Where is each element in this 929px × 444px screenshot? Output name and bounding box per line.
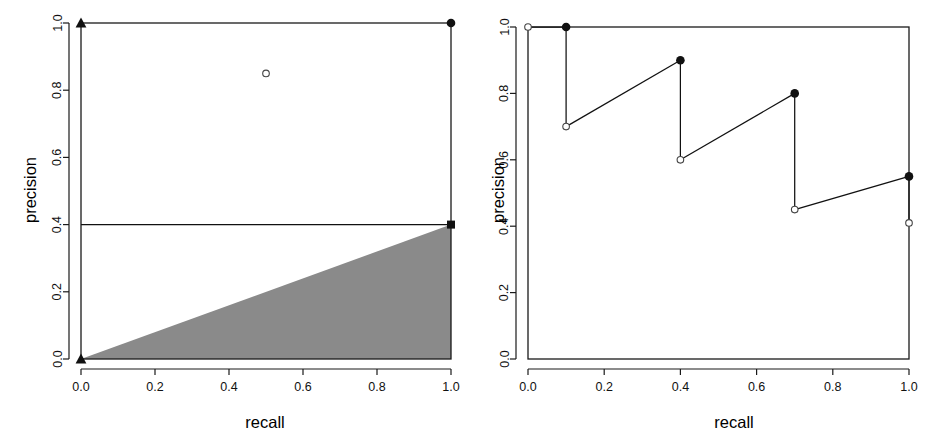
x-tick-label: 0.6 <box>748 380 765 394</box>
y-tick-label: 0.2 <box>498 284 512 301</box>
data-point-open-circle <box>263 70 270 77</box>
chart-line-segment <box>566 60 680 126</box>
chart-regions-left <box>81 225 451 359</box>
y-tick-label: 0.0 <box>51 350 65 367</box>
data-point-filled-circle <box>905 172 914 181</box>
data-point-open-circle <box>906 220 913 227</box>
y-tick-label: 0.0 <box>498 350 512 367</box>
x-tick-label: 1.0 <box>900 380 917 394</box>
data-point-open-circle <box>525 24 532 31</box>
y-tick-label: 0.4 <box>51 216 65 233</box>
chart-line-segment <box>795 176 909 209</box>
y-axis-title-right: precision <box>489 157 507 223</box>
data-point-open-circle <box>791 206 798 213</box>
data-point-filled-square <box>447 221 455 229</box>
x-axis-title-left: recall <box>245 413 284 431</box>
x-tick-label: 0.0 <box>519 380 536 394</box>
data-point-open-circle <box>677 157 684 164</box>
x-tick-label: 0.0 <box>72 380 89 394</box>
y-tick-label: 0.8 <box>498 85 512 102</box>
x-tick-label: 0.2 <box>146 380 163 394</box>
data-point-filled-circle <box>447 19 456 28</box>
chart-line-segment <box>680 93 794 159</box>
x-tick-label: 1.0 <box>442 380 459 394</box>
y-tick-label: 1.0 <box>51 14 65 31</box>
data-point-open-circle <box>563 123 570 130</box>
data-point-filled-circle <box>676 56 685 65</box>
data-points-right <box>525 23 914 226</box>
y-tick-label: 0.2 <box>51 283 65 300</box>
y-tick-label: 0.8 <box>51 81 65 98</box>
y-tick-label: 0.6 <box>51 149 65 166</box>
x-axis-title-right: recall <box>714 413 753 431</box>
x-tick-label: 0.6 <box>294 380 311 394</box>
chart-lines-right <box>528 27 909 223</box>
x-tick-label: 0.4 <box>672 380 689 394</box>
x-axis-right: 0.00.20.40.60.81.0 <box>519 369 917 394</box>
chart-canvas-left: 0.00.20.40.60.81.0 0.00.20.40.60.81.0 re… <box>0 0 465 444</box>
x-axis-left: 0.00.20.40.60.81.0 <box>72 369 459 394</box>
x-tick-label: 0.4 <box>220 380 237 394</box>
chart-panel-left: 0.00.20.40.60.81.0 0.00.20.40.60.81.0 re… <box>0 0 465 444</box>
precision-recall-figure: 0.00.20.40.60.81.0 0.00.20.40.60.81.0 re… <box>0 0 929 444</box>
chart-canvas-right: 0.00.20.40.60.81.0 0.00.20.40.60.81.0 re… <box>464 0 929 444</box>
data-point-filled-circle <box>562 23 571 32</box>
x-tick-label: 0.8 <box>368 380 385 394</box>
chart-panel-right: 0.00.20.40.60.81.0 0.00.20.40.60.81.0 re… <box>464 0 929 444</box>
y-axis-title-left: precision <box>21 157 39 223</box>
y-tick-label: 1.0 <box>498 18 512 35</box>
chart-region <box>81 225 451 359</box>
x-tick-label: 0.8 <box>824 380 841 394</box>
x-tick-label: 0.2 <box>596 380 613 394</box>
y-axis-left: 0.00.20.40.60.81.0 <box>51 14 70 367</box>
data-point-filled-circle <box>790 89 799 98</box>
